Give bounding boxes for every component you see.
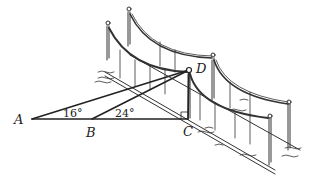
label-A: A xyxy=(14,113,23,126)
triangle xyxy=(32,70,189,119)
label-C: C xyxy=(183,125,193,138)
bridge-drawing xyxy=(0,0,330,180)
cable-back-left xyxy=(130,14,212,58)
point-D-marker xyxy=(187,68,192,73)
tower-back-mid xyxy=(127,7,131,46)
tower-right-front xyxy=(268,114,272,165)
tower-back-left xyxy=(106,21,110,60)
label-B: B xyxy=(86,126,96,139)
diagram-canvas: A B C D 16° 24° xyxy=(0,0,330,180)
angle-B-label: 24° xyxy=(115,108,135,119)
label-D: D xyxy=(196,62,206,75)
cable-back-right xyxy=(214,60,288,104)
segment-AD xyxy=(32,70,189,119)
angle-A-label: 16° xyxy=(63,108,83,119)
